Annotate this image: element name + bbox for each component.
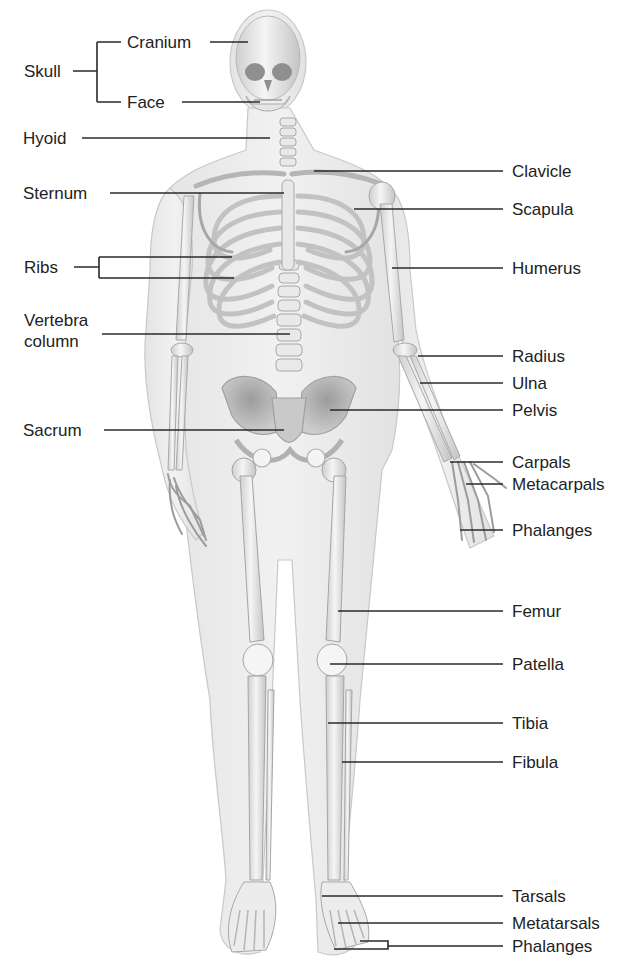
label-fibula: Fibula <box>512 753 558 772</box>
label-metatarsals: Metatarsals <box>512 914 600 933</box>
body-silhouette <box>145 10 494 955</box>
label-scapula: Scapula <box>512 200 573 219</box>
label-skull: Skull <box>24 62 61 81</box>
label-sternum: Sternum <box>23 184 87 203</box>
label-clavicle: Clavicle <box>512 162 572 181</box>
label-radius: Radius <box>512 347 565 366</box>
label-vertebra-line1: Vertebra <box>24 310 88 331</box>
label-humerus: Humerus <box>512 259 581 278</box>
label-hand-phalanges: Phalanges <box>512 521 592 540</box>
label-sacrum: Sacrum <box>23 421 82 440</box>
label-femur: Femur <box>512 602 561 621</box>
label-face: Face <box>127 93 165 112</box>
label-patella: Patella <box>512 655 564 674</box>
skeleton-diagram: Skull Cranium Face Hyoid Sternum Ribs Ve… <box>0 0 638 972</box>
label-tibia: Tibia <box>512 714 548 733</box>
label-cranium: Cranium <box>127 33 191 52</box>
label-vertebra-column: Vertebra column <box>24 310 88 352</box>
label-hyoid: Hyoid <box>23 129 66 148</box>
label-vertebra-line2: column <box>24 331 88 352</box>
skull-bracket <box>73 42 121 102</box>
label-pelvis: Pelvis <box>512 401 557 420</box>
feet-illustration <box>228 882 368 952</box>
label-tarsals: Tarsals <box>512 887 566 906</box>
label-foot-phalanges: Phalanges <box>512 937 592 956</box>
label-carpals: Carpals <box>512 453 571 472</box>
label-ribs: Ribs <box>24 258 58 277</box>
label-ulna: Ulna <box>512 374 547 393</box>
label-metacarpals: Metacarpals <box>512 475 605 494</box>
